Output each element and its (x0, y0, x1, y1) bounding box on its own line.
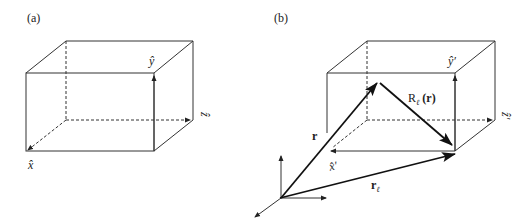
vector-R-main: R (408, 91, 416, 105)
vector-r-l-label: rℓ (371, 178, 380, 194)
x-axis-arrow (28, 120, 66, 150)
panel-a: (a) ŷ ẑ x̂ (26, 11, 212, 172)
figure-canvas: (a) ŷ ẑ x̂ (b) (0, 0, 526, 219)
vector-R-l-label: Rℓ(r) (408, 91, 436, 107)
vector-R-arg: (r) (422, 91, 435, 105)
box-front-face (26, 73, 154, 151)
z-axis-label: ẑ (198, 111, 212, 117)
x-prime-label: x̂′ (327, 158, 339, 174)
y-prime-label: ŷ′ (447, 54, 456, 68)
vector-r-l (280, 154, 455, 198)
z-prime-label: ẑ′ (499, 111, 513, 120)
vector-r-l-sub: ℓ (376, 185, 380, 194)
y-axis-label: ŷ (148, 54, 155, 68)
origin-out-arrow (255, 198, 281, 217)
vector-r (281, 83, 377, 198)
x-axis-label: x̂ (27, 158, 34, 172)
vector-R-sub: ℓ (416, 98, 420, 107)
vector-r-label: r (312, 129, 318, 143)
panel-b: (b) ŷ′ ẑ′ x̂′ (255, 11, 513, 217)
box-a (26, 41, 193, 151)
panel-label-a: (a) (27, 11, 40, 25)
panel-label-b: (b) (274, 11, 288, 25)
